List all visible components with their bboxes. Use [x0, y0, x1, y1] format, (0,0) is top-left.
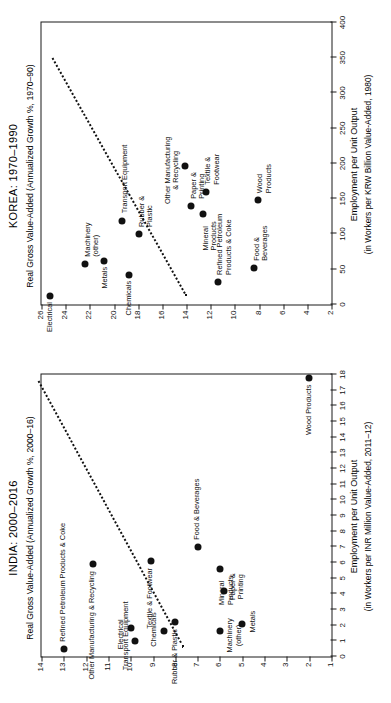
- data-point-label: Transport Equipment: [121, 601, 129, 670]
- data-point: [46, 292, 53, 299]
- data-point-label: Other Manufacturing & Recycling: [87, 571, 95, 679]
- data-point: [81, 260, 88, 267]
- y-tick: [242, 656, 243, 661]
- y-tick-label: 24: [59, 310, 68, 332]
- y-tick: [186, 304, 187, 309]
- y-tick-label: 3: [280, 662, 289, 684]
- x-tick-label: 100: [331, 221, 346, 247]
- y-tick-label: 16: [156, 310, 165, 332]
- data-point: [216, 565, 223, 572]
- y-tick-label: 10: [228, 310, 237, 332]
- y-tick: [153, 656, 154, 661]
- x-tick-label: 200: [331, 150, 346, 176]
- plot-area-india: 0123456789101112131415161718123456789101…: [40, 373, 332, 657]
- y-tick: [65, 304, 66, 309]
- data-point: [135, 230, 142, 237]
- panel-india: INDIA: 2000–2016 Real Gross Value-Added …: [0, 352, 391, 703]
- y-tick: [41, 656, 42, 661]
- y-tick: [138, 304, 139, 309]
- data-point: [254, 196, 261, 203]
- y-tick: [331, 656, 332, 661]
- data-point-label: Metals: [100, 266, 108, 288]
- x-tick-label: 50: [331, 256, 346, 282]
- panel-korea-x-axis-label-line2: (in Workers per KRW Billion Value-Added,…: [362, 23, 372, 305]
- data-point: [220, 587, 227, 594]
- y-tick-label: 20: [108, 310, 117, 332]
- y-tick: [89, 304, 90, 309]
- y-tick-label: 26: [35, 310, 44, 332]
- y-tick-label: 4: [301, 310, 310, 332]
- y-tick-label: 18: [132, 310, 141, 332]
- y-tick-label: 9: [147, 662, 156, 684]
- y-tick-label: 4: [258, 662, 267, 684]
- y-tick-label: 6: [277, 310, 286, 332]
- data-point: [194, 543, 201, 550]
- y-tick: [63, 656, 64, 661]
- panel-korea: KOREA: 1970–1990 Real Gross Value-Added …: [0, 0, 391, 351]
- y-tick: [309, 656, 310, 661]
- data-point: [125, 271, 132, 278]
- x-tick-label: 350: [331, 44, 346, 70]
- data-point: [250, 264, 257, 271]
- y-tick-label: 2: [325, 310, 334, 332]
- data-point-label: Chemicals: [149, 612, 157, 647]
- data-point-label: Rubber & Plastic: [170, 629, 178, 684]
- data-point-label: Textile & Footwear: [203, 153, 220, 184]
- x-tick-label: 150: [331, 185, 346, 211]
- y-tick: [219, 656, 220, 661]
- y-tick-label: 1: [325, 662, 334, 684]
- y-tick-label: 14: [180, 310, 189, 332]
- panel-korea-y-axis-label: Real Gross Value-Added (Annualized Growt…: [24, 0, 34, 351]
- panel-india-x-axis-label-line1: Employment per Unit Output: [348, 375, 358, 657]
- data-point-label: Electrical: [45, 302, 53, 332]
- y-tick: [197, 656, 198, 661]
- panel-india-y-axis-label: Real Gross Value-Added (Annualized Growt…: [24, 352, 34, 703]
- y-tick: [114, 304, 115, 309]
- data-point-label: Food & Beverages: [252, 225, 269, 260]
- plot-area-korea: 0501001502002503003504002468101214161820…: [40, 21, 332, 305]
- data-point: [147, 557, 154, 564]
- y-tick: [259, 304, 260, 309]
- data-point: [216, 627, 223, 634]
- y-tick: [283, 304, 284, 309]
- data-point: [305, 374, 312, 381]
- data-point-label: Wood Products: [304, 384, 312, 434]
- data-point: [60, 645, 67, 652]
- panel-india-title: INDIA: 2000–2016: [6, 352, 18, 703]
- y-tick-label: 12: [204, 310, 213, 332]
- data-point: [160, 627, 167, 634]
- data-point-label: Food & Beverages: [192, 478, 200, 539]
- y-tick: [286, 656, 287, 661]
- data-point: [202, 188, 209, 195]
- data-point-label: Refined Petroleum Products & Coke: [215, 213, 232, 274]
- data-point: [131, 637, 138, 644]
- panel-korea-x-axis-label-line1: Employment per Unit Output: [348, 23, 358, 305]
- y-tick: [234, 304, 235, 309]
- x-tick-label: 400: [331, 9, 346, 35]
- y-tick: [108, 656, 109, 661]
- data-point-label: Chemicals: [124, 280, 132, 315]
- y-tick: [130, 656, 131, 661]
- y-tick-label: 14: [35, 662, 44, 684]
- panel-india-x-axis-label-line2: (in Workers per INR Million Value-Added,…: [362, 375, 372, 657]
- y-tick: [307, 304, 308, 309]
- y-tick: [162, 304, 163, 309]
- data-point: [100, 257, 107, 264]
- y-tick-label: 13: [57, 662, 66, 684]
- data-point: [171, 618, 178, 625]
- data-point-label: Machinery (other): [83, 222, 100, 256]
- y-tick-label: 2: [303, 662, 312, 684]
- data-point-label: Other Manufacturing & Recycling: [163, 136, 180, 203]
- y-tick: [41, 304, 42, 309]
- data-point: [187, 202, 194, 209]
- data-point-label: Transport Equipment: [120, 144, 128, 213]
- data-point-label: Refined Petroleum Products & Coke: [58, 522, 66, 641]
- data-point: [118, 217, 125, 224]
- y-tick-label: 8: [253, 310, 262, 332]
- data-point: [89, 560, 96, 567]
- data-point: [181, 162, 188, 169]
- y-tick: [210, 304, 211, 309]
- figure-page: KOREA: 1970–1990 Real Gross Value-Added …: [0, 0, 391, 703]
- y-tick-label: 5: [236, 662, 245, 684]
- data-point: [214, 278, 221, 285]
